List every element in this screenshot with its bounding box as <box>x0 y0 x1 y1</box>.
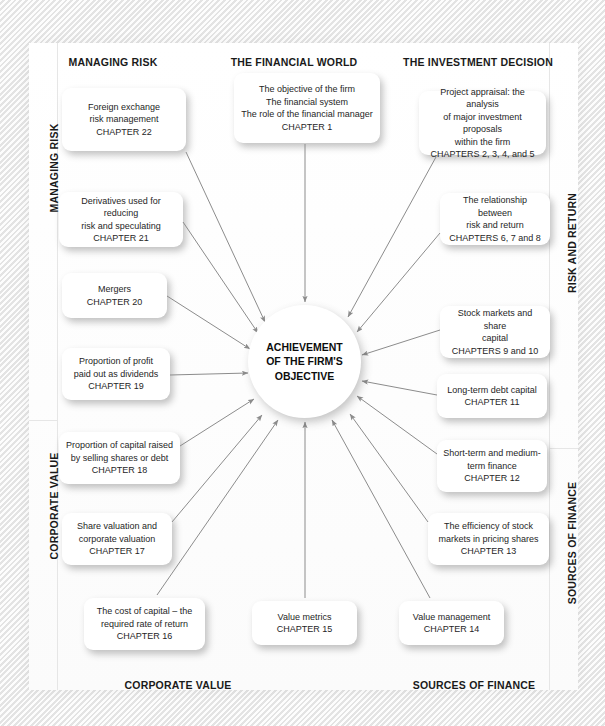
node-chapter-14: Value management CHAPTER 14 <box>399 601 504 645</box>
node-label-chapter-13: The efficiency of stock markets in prici… <box>438 520 538 558</box>
node-chapter-19: Proportion of profit paid out as dividen… <box>62 348 170 400</box>
node-chapter-11: Long-term debt capital CHAPTER 11 <box>437 374 547 418</box>
bottom-heading-sources-of-finance: SOURCES OF FINANCE <box>413 679 536 691</box>
node-label-chapter-14: Value management CHAPTER 14 <box>413 611 490 636</box>
node-label-chapter-9-10: Stock markets and share capital CHAPTERS… <box>446 307 544 357</box>
node-label-chapter-2-5: Project appraisal: the analysis of major… <box>425 86 540 161</box>
node-chapter-18: Proportion of capital raised by selling … <box>59 432 180 484</box>
node-label-chapter-16: The cost of capital – the required rate … <box>97 605 193 643</box>
node-label-chapter-20: Mergers CHAPTER 20 <box>87 283 143 308</box>
side-heading-risk-and-return-side: RISK AND RETURN <box>566 193 578 293</box>
node-chapter-22: Foreign exchange risk management CHAPTER… <box>62 88 186 151</box>
node-chapter-1: The objective of the firm The financial … <box>234 73 380 143</box>
node-label-chapter-22: Foreign exchange risk management CHAPTER… <box>88 101 160 139</box>
gutter-divider-right <box>549 43 550 690</box>
node-chapter-16: The cost of capital – the required rate … <box>84 598 205 650</box>
node-chapter-13: The efficiency of stock markets in prici… <box>428 513 549 565</box>
diagram-canvas: MANAGING RISKTHE FINANCIAL WORLDTHE INVE… <box>0 0 605 726</box>
column-heading-managing-risk: MANAGING RISK <box>69 56 158 68</box>
column-heading-the-financial-world: THE FINANCIAL WORLD <box>231 56 358 68</box>
node-chapter-6-8: The relationship between risk and return… <box>440 193 550 245</box>
node-chapter-12: Short-term and medium- term finance CHAP… <box>437 440 547 492</box>
node-chapter-9-10: Stock markets and share capital CHAPTERS… <box>440 306 550 358</box>
node-label-chapter-17: Share valuation and corporate valuation … <box>77 520 157 558</box>
node-label-chapter-15: Value metrics CHAPTER 15 <box>277 611 333 636</box>
node-chapter-15: Value metrics CHAPTER 15 <box>252 601 357 645</box>
node-label-chapter-6-8: The relationship between risk and return… <box>446 194 544 244</box>
node-chapter-21: Derivatives used for reducing risk and s… <box>59 192 183 247</box>
column-heading-the-investment-decision: THE INVESTMENT DECISION <box>403 56 553 68</box>
side-heading-sources-of-finance-side: SOURCES OF FINANCE <box>566 482 578 605</box>
gutter-section-split-right <box>549 448 578 449</box>
hub-achievement-of-the-firms-objective: ACHIEVEMENT OF THE FIRM'S OBJECTIVE <box>248 305 361 418</box>
node-label-chapter-1: The objective of the firm The financial … <box>241 83 373 133</box>
node-label-chapter-11: Long-term debt capital CHAPTER 11 <box>447 384 537 409</box>
node-label-chapter-19: Proportion of profit paid out as dividen… <box>74 355 159 393</box>
node-label-chapter-18: Proportion of capital raised by selling … <box>66 439 173 477</box>
bottom-heading-corporate-value: CORPORATE VALUE <box>124 679 231 691</box>
node-label-chapter-12: Short-term and medium- term finance CHAP… <box>443 447 541 485</box>
node-chapter-20: Mergers CHAPTER 20 <box>62 273 167 318</box>
gutter-section-split-left <box>29 420 58 421</box>
hub-label: ACHIEVEMENT OF THE FIRM'S OBJECTIVE <box>266 340 343 384</box>
node-chapter-17: Share valuation and corporate valuation … <box>62 513 172 565</box>
node-label-chapter-21: Derivatives used for reducing risk and s… <box>65 195 177 245</box>
node-chapter-2-5: Project appraisal: the analysis of major… <box>419 91 546 155</box>
